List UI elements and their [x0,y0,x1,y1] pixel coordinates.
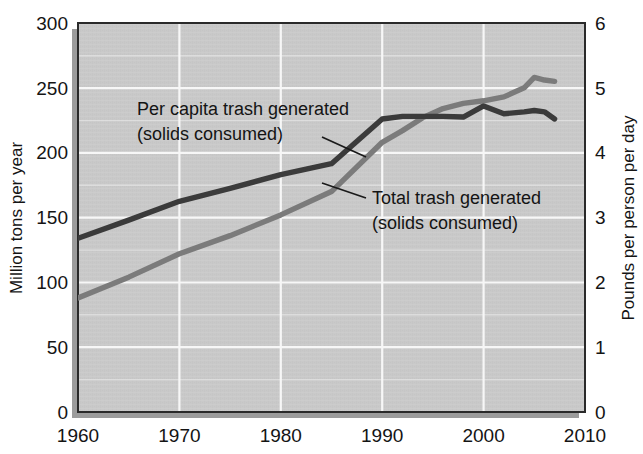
left-axis-title: Million tons per year [7,142,26,294]
right-tick-4: 4 [595,142,606,163]
annotation-total-trash-line2: (solids consumed) [372,213,518,233]
x-tick-1990: 1990 [361,425,403,446]
chart-figure: 300 250 200 150 100 50 0 Million tons pe… [0,0,643,454]
right-tick-6: 6 [595,13,606,34]
left-tick-50: 50 [47,337,68,358]
right-tick-5: 5 [595,78,606,99]
right-tick-0: 0 [595,402,606,423]
annotation-total-trash-line1: Total trash generated [372,188,541,208]
x-tick-2000: 2000 [462,425,504,446]
right-tick-3: 3 [595,207,606,228]
annotation-per-capita-line2: (solids consumed) [137,124,283,144]
x-tick-2010: 2010 [564,425,606,446]
left-tick-200: 200 [36,142,68,163]
left-tick-100: 100 [36,272,68,293]
right-tick-1: 1 [595,337,606,358]
x-tick-1980: 1980 [260,425,302,446]
left-tick-0: 0 [57,402,68,423]
left-tick-150: 150 [36,207,68,228]
left-tick-300: 300 [36,13,68,34]
left-tick-250: 250 [36,78,68,99]
x-tick-1970: 1970 [158,425,200,446]
annotation-per-capita-line1: Per capita trash generated [137,99,349,119]
x-tick-1960: 1960 [57,425,99,446]
right-axis-title: Pounds per person per day [619,115,638,321]
right-tick-2: 2 [595,272,606,293]
